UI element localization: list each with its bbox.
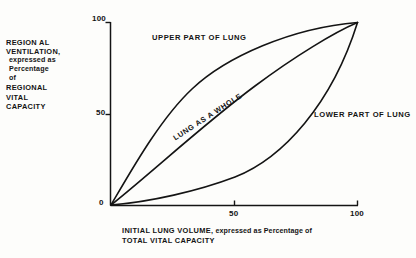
- x-tick-label-100: 100: [350, 209, 364, 218]
- annotation-upper-part-of-lung: UPPER PART OF LUNG: [152, 33, 247, 42]
- x-tick-label-50: 50: [229, 209, 238, 218]
- figure-canvas: REGION AL VENTILATION, expressed as Perc…: [0, 0, 416, 258]
- x-caption-caps: INITIAL LUNG VOLUME,: [122, 226, 213, 235]
- x-caption-line-1: INITIAL LUNG VOLUME, expressed as Percen…: [122, 226, 402, 236]
- y-tick-label-50: 50: [96, 108, 105, 117]
- x-axis-caption: INITIAL LUNG VOLUME, expressed as Percen…: [122, 226, 402, 246]
- y-tick-label-0: 0: [99, 198, 104, 207]
- annotation-lower-part-of-lung: LOWER PART OF LUNG: [314, 110, 411, 119]
- x-caption-line-2: TOTAL VITAL CAPACITY: [122, 236, 402, 245]
- y-tick-label-100: 100: [92, 14, 106, 23]
- x-caption-lower: expressed as Percentage of: [213, 227, 312, 235]
